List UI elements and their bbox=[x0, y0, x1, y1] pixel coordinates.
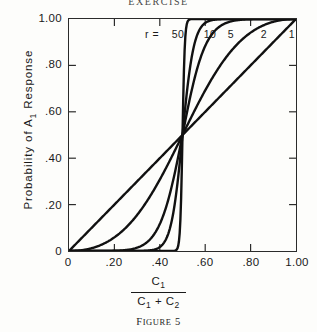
x-tick-label-1-00: 1.00 bbox=[275, 256, 317, 268]
legend-entry-2: 2 bbox=[261, 28, 267, 40]
legend-entry-50: 50 bbox=[172, 28, 185, 40]
x-tick-label-0-60: .60 bbox=[183, 256, 227, 268]
plot-frame bbox=[68, 18, 297, 252]
legend-entry-10: 10 bbox=[204, 28, 217, 40]
running-head: EXERCISE bbox=[0, 0, 317, 5]
figure-caption: FIGURE 5 bbox=[0, 316, 317, 327]
x-axis-denominator: C1 + C2 bbox=[131, 293, 186, 311]
x-tick-label-0-40: .40 bbox=[138, 256, 182, 268]
x-tick-label-0-80: .80 bbox=[229, 256, 273, 268]
legend-entry-5: 5 bbox=[228, 28, 234, 40]
y-axis-title: Probability of A1 Response bbox=[22, 30, 37, 230]
legend-prefix: r = bbox=[145, 28, 159, 40]
figure-page: EXERCISE 1.00 .80 .60 .40 .20 0 Probabil… bbox=[0, 0, 317, 332]
y-axis-title-sub: 1 bbox=[28, 113, 38, 119]
y-axis-title-pre: Probability of A bbox=[22, 118, 34, 209]
response-curves bbox=[69, 19, 296, 251]
x-axis-title: C1 C1 + C2 bbox=[0, 274, 317, 311]
caption-smallcaps: IGURE bbox=[143, 317, 172, 327]
x-tick-label-0: 0 bbox=[46, 256, 90, 268]
y-axis-title-post: Response bbox=[22, 50, 34, 113]
x-axis-numerator: C1 bbox=[131, 274, 186, 292]
caption-number: 5 bbox=[172, 316, 181, 327]
legend: r = 50 10 5 2 1 bbox=[68, 28, 297, 44]
chart-curves bbox=[69, 19, 296, 251]
legend-entry-1: 1 bbox=[289, 28, 295, 40]
y-tick-label-1-00: 1.00 bbox=[22, 12, 62, 24]
x-axis-fraction: C1 C1 + C2 bbox=[131, 274, 186, 311]
x-tick-label-0-20: .20 bbox=[92, 256, 136, 268]
